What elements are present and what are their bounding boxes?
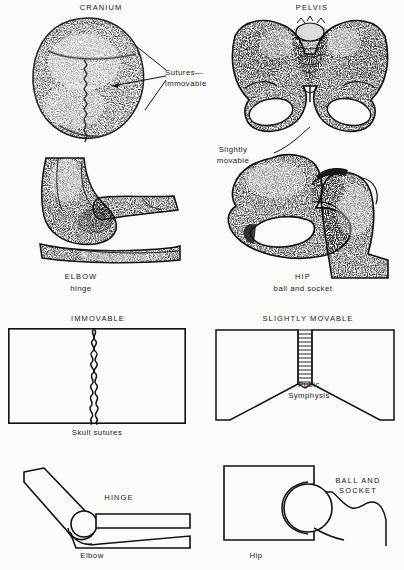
slightly-movable-diagram-title: SLIGHTLY MOVABLE xyxy=(238,314,378,324)
ball-socket-diagram-caption: Hip xyxy=(228,551,284,562)
pelvis-title: PELVIS xyxy=(272,3,352,13)
joint-types-figure: CRANIUM xyxy=(0,0,404,570)
hip-title: HIP xyxy=(268,272,338,282)
hinge-diagram-caption: Elbow xyxy=(62,551,122,562)
immovable-diagram xyxy=(8,328,186,424)
hinge-diagram-title: HINGE xyxy=(88,493,150,503)
elbow-title: ELBOW xyxy=(38,272,124,282)
hip-illustration xyxy=(212,150,392,280)
cranium-callout-leaders xyxy=(100,42,168,112)
elbow-subtitle: hinge xyxy=(38,284,124,295)
immovable-diagram-title: IMMOVABLE xyxy=(48,314,148,324)
slightly-movable-diagram xyxy=(214,328,396,424)
slightly-movable-diagram-caption: Pubic Symphysis xyxy=(265,380,353,401)
hinge-diagram xyxy=(18,466,196,548)
immovable-diagram-caption: Skull sutures xyxy=(47,428,147,439)
ball-socket-diagram-title: BALL AND SOCKET xyxy=(320,476,396,496)
cranium-title: CRANIUM xyxy=(58,3,144,13)
elbow-illustration xyxy=(22,158,182,268)
hip-subtitle: ball and socket xyxy=(258,284,348,295)
